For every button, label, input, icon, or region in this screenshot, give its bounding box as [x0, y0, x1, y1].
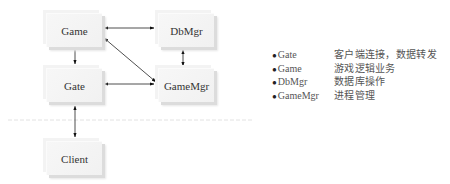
node-gamemgr: GameMgr	[158, 68, 214, 102]
legend-name: Game	[278, 63, 302, 74]
legend-item-dbmgr: ●DbMgr 数据库操作	[272, 76, 437, 90]
legend-name: GameMgr	[278, 90, 319, 101]
bullet-icon: ●	[272, 51, 277, 60]
legend-item-game: ●Game 游戏逻辑业务	[272, 63, 437, 77]
legend-desc: 数据库操作	[334, 76, 386, 90]
bullet-icon: ●	[272, 78, 277, 87]
bullet-icon: ●	[272, 92, 277, 101]
node-label: Client	[61, 153, 88, 165]
node-gate: Gate	[46, 68, 102, 102]
node-label: DbMgr	[170, 25, 202, 37]
legend-desc: 客户端连接，数据转发	[334, 49, 437, 63]
node-label: Game	[61, 25, 87, 37]
legend-name: DbMgr	[278, 76, 307, 87]
legend-desc: 进程管理	[334, 90, 375, 104]
node-game: Game	[46, 13, 102, 47]
node-label: Gate	[64, 80, 85, 92]
legend-name: Gate	[278, 49, 297, 60]
node-client: Client	[46, 141, 102, 175]
legend-item-gate: ●Gate 客户端连接，数据转发	[272, 49, 437, 63]
node-dbmgr: DbMgr	[158, 13, 214, 47]
legend: ●Gate 客户端连接，数据转发 ●Game 游戏逻辑业务 ●DbMgr 数据库…	[272, 49, 437, 103]
legend-desc: 游戏逻辑业务	[334, 63, 396, 77]
legend-item-gamemgr: ●GameMgr 进程管理	[272, 90, 437, 104]
bullet-icon: ●	[272, 65, 277, 74]
edge-game-gamemgr	[104, 38, 156, 82]
node-label: GameMgr	[164, 80, 209, 92]
